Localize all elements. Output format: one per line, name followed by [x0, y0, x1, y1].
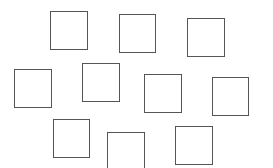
square-2 [119, 14, 156, 53]
diagram-canvas [0, 0, 273, 168]
square-4 [14, 69, 52, 108]
square-1 [50, 11, 88, 50]
square-7 [212, 77, 249, 116]
square-8 [53, 119, 90, 158]
square-3 [187, 18, 225, 57]
square-6 [144, 74, 182, 113]
square-5 [82, 63, 120, 102]
square-10 [175, 126, 213, 165]
square-9 [107, 132, 145, 168]
